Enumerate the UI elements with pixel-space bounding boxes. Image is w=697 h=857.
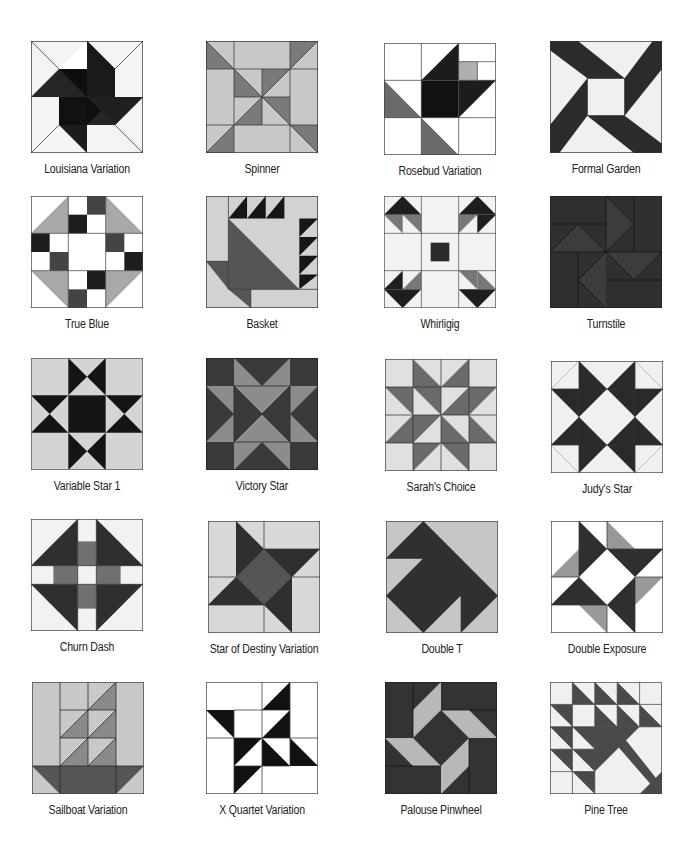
quilt-block-victory-star: Victory Star — [206, 358, 356, 470]
block-caption: Basket — [174, 317, 350, 331]
block-caption: Double T — [354, 642, 530, 656]
quilt-block-formal-garden: Formal Garden — [550, 41, 697, 153]
quilt-block-double-exposure: Double Exposure — [551, 521, 697, 633]
judys-star-diagram — [551, 361, 663, 473]
quilt-block-whirligig: Whirligig — [384, 196, 534, 308]
block-caption: Variable Star 1 — [0, 479, 175, 493]
block-caption: Turnstile — [518, 317, 694, 331]
quilt-block-palouse-pinwheel: Palouse Pinwheel — [385, 682, 535, 794]
block-caption: Pine Tree — [518, 803, 694, 817]
block-caption: Judy's Star — [519, 482, 695, 496]
quilt-block-gallery: Louisiana Variation Spinner — [0, 0, 697, 857]
block-caption: Formal Garden — [518, 162, 694, 176]
quilt-block-star-of-destiny-variation: Star of Destiny Variation — [208, 521, 358, 633]
star-of-destiny-variation-diagram — [208, 521, 320, 633]
sarahs-choice-diagram — [385, 359, 497, 471]
victory-star-diagram — [206, 358, 318, 470]
churn-dash-diagram — [31, 519, 143, 631]
double-t-diagram — [386, 521, 498, 633]
quilt-block-basket: Basket — [206, 196, 356, 308]
block-caption: X Quartet Variation — [174, 803, 350, 817]
block-caption: Louisiana Variation — [0, 162, 175, 176]
quilt-block-true-blue: True Blue — [31, 196, 181, 308]
quilt-block-sarahs-choice: Sarah's Choice — [385, 359, 535, 471]
formal-garden-diagram — [550, 41, 662, 153]
block-caption: Spinner — [174, 162, 350, 176]
block-caption: Palouse Pinwheel — [353, 803, 529, 817]
block-caption: Whirligig — [352, 317, 528, 331]
double-exposure-diagram — [551, 521, 663, 633]
palouse-pinwheel-diagram — [385, 682, 497, 794]
quilt-block-pine-tree: Pine Tree — [550, 682, 697, 794]
basket-diagram — [206, 196, 318, 308]
spinner-diagram — [206, 41, 318, 153]
quilt-block-judys-star: Judy's Star — [551, 361, 697, 473]
block-caption: Sarah's Choice — [353, 480, 529, 494]
sailboat-variation-diagram — [32, 682, 144, 794]
rosebud-variation-diagram — [384, 43, 496, 155]
quilt-block-variable-star-1: Variable Star 1 — [31, 358, 181, 470]
block-caption: True Blue — [0, 317, 175, 331]
quilt-block-rosebud-variation: Rosebud Variation — [384, 43, 534, 155]
variable-star-1-diagram — [31, 358, 143, 470]
block-caption: Double Exposure — [519, 642, 695, 656]
pine-tree-diagram — [550, 682, 662, 794]
louisiana-variation-diagram — [31, 41, 143, 153]
block-caption: Rosebud Variation — [352, 164, 528, 178]
whirligig-diagram — [384, 196, 496, 308]
quilt-block-louisiana-variation: Louisiana Variation — [31, 41, 181, 153]
quilt-block-turnstile: Turnstile — [550, 196, 697, 308]
quilt-block-sailboat-variation: Sailboat Variation — [32, 682, 182, 794]
turnstile-diagram — [550, 196, 662, 308]
block-caption: Churn Dash — [0, 640, 175, 654]
quilt-block-double-t: Double T — [386, 521, 536, 633]
true-blue-diagram — [31, 196, 143, 308]
quilt-block-churn-dash: Churn Dash — [31, 519, 181, 631]
block-caption: Star of Destiny Variation — [176, 642, 352, 656]
quilt-block-x-quartet-variation: X Quartet Variation — [206, 682, 356, 794]
quilt-block-spinner: Spinner — [206, 41, 356, 153]
x-quartet-variation-diagram — [206, 682, 318, 794]
block-caption: Victory Star — [174, 479, 350, 493]
block-caption: Sailboat Variation — [0, 803, 176, 817]
